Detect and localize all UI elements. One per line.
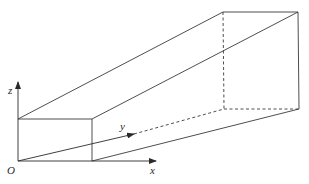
back-right-edge [298,12,299,109]
y-axis-label: y [119,120,125,132]
top-left-depth-edge [18,12,223,119]
hidden-edge-back-left-vertical [223,12,224,109]
y-axis [18,134,134,161]
origin-label: O [7,164,15,176]
z-axis-label: z [7,84,13,96]
top-right-depth-edge [92,12,298,119]
bottom-right-depth-edge [92,109,299,161]
box-diagram: z x y O [0,0,309,184]
hidden-edge-bottom-left-depth [134,109,224,134]
x-axis-label: x [149,164,155,176]
